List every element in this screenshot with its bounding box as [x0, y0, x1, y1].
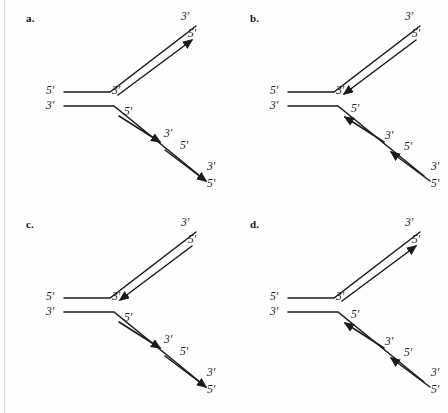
panel-c-left-lower-label: 3' — [46, 306, 54, 318]
panel-d-fragment1-start-label: 3' — [385, 336, 393, 348]
strand-template-top — [64, 26, 196, 92]
panel-b-fork-lower-label: 5' — [351, 103, 359, 115]
panel-b-fragment1-start-label: 3' — [385, 130, 393, 142]
panel-a-left-lower-label: 3' — [46, 100, 54, 112]
okazaki-fragment-2-arrow — [391, 152, 430, 181]
panel-d-fork-upper-label: 3' — [336, 291, 344, 303]
panel-c-left-upper-label: 5' — [46, 291, 54, 303]
strand-template-top — [64, 232, 196, 298]
panel-c-fork-lower-label: 5' — [124, 312, 132, 324]
leading-strand-arrow — [344, 40, 416, 94]
okazaki-fragment-1-arrow — [345, 117, 384, 142]
panel-b-fragment2-end-label: 5' — [404, 141, 412, 153]
panel-a-fragment2-start-label: 5' — [180, 140, 188, 152]
panel-a-left-upper-label: 5' — [46, 85, 54, 97]
panel-a: a. — [0, 0, 224, 206]
panel-c-fragment2-start-label: 5' — [180, 346, 188, 358]
okazaki-fragment-2-arrow — [165, 150, 206, 181]
leading-strand-arrow — [118, 40, 192, 95]
panel-d-fragment2-end-label: 5' — [404, 347, 412, 359]
strand-template-top — [288, 26, 420, 92]
panel-d-left-lower-label: 3' — [270, 306, 278, 318]
panel-b-fragment2-start-label: 3' — [431, 161, 439, 173]
panel-b-terminal-label: 5' — [431, 178, 439, 190]
panel-a-fragment2-end-label: 3' — [207, 161, 215, 173]
panel-b-left-upper-label: 5' — [270, 85, 278, 97]
panel-b-left-lower-label: 3' — [270, 100, 278, 112]
panel-c-fragment2-end-label: 3' — [207, 367, 215, 379]
panel-d-top-inner-label: 5' — [412, 234, 420, 246]
panel-b-top-inner-label: 5' — [412, 28, 420, 40]
panel-d-left-upper-label: 5' — [270, 291, 278, 303]
figure-root: a. — [0, 0, 448, 413]
panel-c-top-inner-label: 5' — [188, 234, 196, 246]
okazaki-fragment-1-arrow — [345, 323, 384, 348]
panel-a-fork-lower-label: 5' — [124, 106, 132, 118]
panel-d-terminal-label: 5' — [431, 384, 439, 396]
panel-a-top-outer-label: 3' — [181, 11, 189, 23]
panel-d-fragment2-start-label: 3' — [431, 367, 439, 379]
panel-c: c. 3' — [0, 206, 224, 412]
panel-b: b. — [224, 0, 448, 206]
panel-b-top-outer-label: 3' — [405, 11, 413, 23]
okazaki-fragment-1-arrow — [119, 116, 160, 142]
panel-c-terminal-label: 5' — [207, 384, 215, 396]
okazaki-fragment-2-arrow — [165, 356, 206, 387]
panel-c-fragment1-end-label: 3' — [164, 334, 172, 346]
panel-b-fork-upper-label: 3' — [336, 85, 344, 97]
leading-strand-arrow — [342, 246, 416, 301]
panel-d-top-outer-label: 3' — [405, 217, 413, 229]
okazaki-fragment-1-arrow — [119, 322, 160, 348]
strand-template-top — [288, 232, 420, 298]
panel-c-top-outer-label: 3' — [181, 217, 189, 229]
okazaki-fragment-2-arrow — [391, 358, 430, 387]
panel-a-fragment1-end-label: 3' — [164, 128, 172, 140]
panel-a-top-inner-label: 5' — [188, 28, 196, 40]
leading-strand-arrow — [120, 246, 192, 300]
panel-a-fork-upper-label: 3' — [112, 85, 120, 97]
panel-d-fork-lower-label: 5' — [351, 309, 359, 321]
panel-d: d. 3' — [224, 206, 448, 412]
panel-a-terminal-label: 5' — [207, 178, 215, 190]
panel-c-fork-upper-label: 3' — [112, 291, 120, 303]
